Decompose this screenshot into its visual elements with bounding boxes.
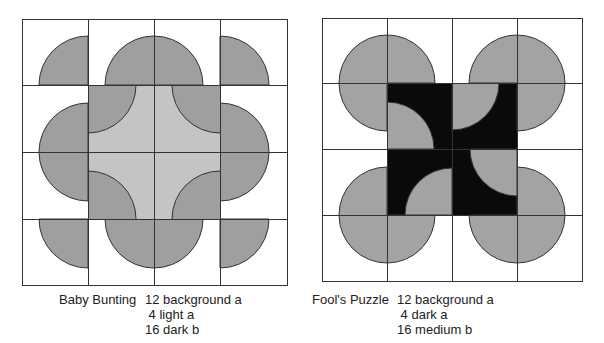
count-line: 16 medium b bbox=[397, 322, 494, 337]
count-line: 12 background a bbox=[145, 292, 242, 307]
count-line: 16 dark b bbox=[145, 322, 242, 337]
quilt-name-baby-bunting: Baby Bunting bbox=[59, 292, 136, 307]
fabric-counts-fools-puzzle: 12 background a 4 dark a 16 medium b bbox=[397, 292, 494, 337]
baby-bunting-block bbox=[22, 19, 288, 286]
count-line: 4 dark a bbox=[397, 307, 494, 322]
count-line: 12 background a bbox=[397, 292, 494, 307]
count-line: 4 light a bbox=[145, 307, 242, 322]
fabric-counts-baby-bunting: 12 background a 4 light a 16 dark b bbox=[145, 292, 242, 337]
quilt-name-fools-puzzle: Fool's Puzzle bbox=[312, 292, 389, 307]
fools-puzzle-block bbox=[322, 18, 583, 282]
